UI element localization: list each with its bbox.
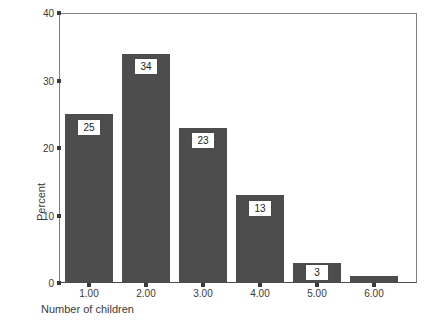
x-tick-label-6: 6.00 <box>349 288 399 299</box>
bar-value-label-5: 3 <box>305 264 329 281</box>
y-tick-label-0: 0 <box>16 278 54 289</box>
bar-1 <box>65 114 113 283</box>
bar-3 <box>179 128 227 283</box>
x-tick-mark-3 <box>201 283 205 287</box>
y-tick-mark-20 <box>57 146 61 150</box>
x-tick-mark-6 <box>372 283 376 287</box>
x-tick-mark-2 <box>144 283 148 287</box>
y-axis-label: Percent <box>35 157 47 247</box>
bar-value-label-1: 25 <box>77 119 101 136</box>
y-tick-label-10: 10 <box>16 210 54 221</box>
x-axis-label: Number of children <box>41 303 134 315</box>
x-tick-label-4: 4.00 <box>235 288 285 299</box>
bar-value-label-2: 34 <box>134 58 158 75</box>
x-tick-mark-5 <box>315 283 319 287</box>
bar-value-label-3: 23 <box>191 132 215 149</box>
x-tick-label-1: 1.00 <box>64 288 114 299</box>
y-tick-mark-30 <box>57 79 61 83</box>
x-tick-label-3: 3.00 <box>178 288 228 299</box>
y-tick-mark-10 <box>57 214 61 218</box>
x-tick-mark-4 <box>258 283 262 287</box>
y-tick-mark-0 <box>57 281 61 285</box>
y-tick-mark-40 <box>57 11 61 15</box>
bar-value-label-4: 13 <box>248 200 272 217</box>
bar-2 <box>122 54 170 284</box>
x-tick-label-2: 2.00 <box>121 288 171 299</box>
x-tick-mark-1 <box>87 283 91 287</box>
y-tick-label-40: 40 <box>16 8 54 19</box>
y-tick-label-20: 20 <box>16 143 54 154</box>
x-tick-label-5: 5.00 <box>292 288 342 299</box>
histogram-chart: Percent Number of children 40 30 20 10 0… <box>0 0 430 328</box>
bar-6 <box>350 276 398 283</box>
y-tick-label-30: 30 <box>16 75 54 86</box>
